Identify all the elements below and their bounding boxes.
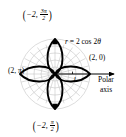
point-label-left: (2, π): [8, 67, 24, 75]
point-top-inner: −2, 3π2: [26, 8, 47, 22]
tick-label-one: 1: [73, 76, 77, 83]
paren-close-bottom: ): [55, 121, 58, 130]
point-bottom-radius: −2,: [36, 121, 47, 130]
polar-axis-label-line2: axis: [100, 86, 112, 94]
paren-close-top: ): [48, 10, 51, 19]
point-top-denominator: 2: [40, 14, 48, 21]
polar-rose-figure: (−2, 3π2) (−2, π2) (2, π) (2, 0) r = 2 c…: [0, 0, 126, 137]
point-bottom-inner: −2, π2: [36, 119, 54, 133]
equation-body: = 2 cos 2: [70, 37, 97, 46]
point-top-fraction: 3π2: [40, 8, 48, 22]
equation-theta-symbol: θ: [97, 37, 101, 46]
point-bottom-fraction: π2: [50, 119, 55, 133]
equation-label: r = 2 cos 2θ: [65, 38, 101, 46]
point-bottom-denominator: 2: [50, 125, 55, 132]
paren-open-top: (: [23, 10, 26, 19]
point-top-radius: −2,: [26, 10, 37, 19]
point-top-numerator: 3π: [40, 8, 48, 14]
paren-open-bottom: (: [33, 121, 36, 130]
point-label-top: (−2, 3π2): [22, 8, 52, 22]
point-label-bottom: (−2, π2): [32, 119, 59, 133]
polar-axis-label-line1: Polar: [98, 76, 114, 84]
point-label-right: (2, 0): [89, 54, 105, 62]
equation-variable-r: r: [65, 37, 68, 46]
